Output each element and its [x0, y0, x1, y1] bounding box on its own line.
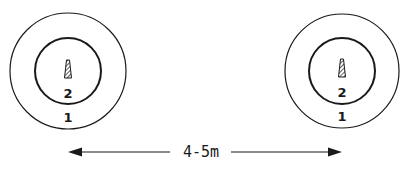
outer-zone-label: 1 [337, 109, 346, 124]
outer-zone-label: 1 [63, 110, 72, 125]
arrow-head-left-icon [68, 148, 82, 157]
dimension-label: 4-5m [183, 143, 219, 161]
nozzle-icon [339, 59, 346, 77]
nozzle-icon [65, 60, 72, 78]
inner-zone-label: 2 [337, 85, 346, 100]
dimension-arrow: 4-5m [68, 143, 342, 161]
station-right: 2 1 [285, 14, 399, 128]
spacing-diagram: 2 1 2 1 4-5m [0, 0, 407, 169]
arrow-head-right-icon [328, 148, 342, 157]
station-left: 2 1 [10, 13, 126, 129]
inner-zone-label: 2 [63, 86, 72, 101]
